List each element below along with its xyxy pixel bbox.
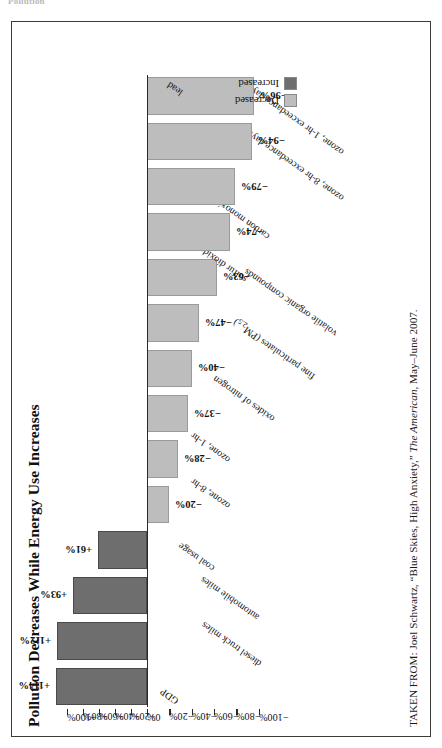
axis-tick-label: 0% bbox=[147, 712, 161, 723]
bar-column[interactable]: −94%ozone, 1-hr exceedance days bbox=[51, 121, 281, 162]
bar-increased[interactable] bbox=[98, 531, 147, 568]
bar-column[interactable]: +93%automobile miles bbox=[51, 575, 281, 616]
bar-columns: +114%GDP+112%diesel truck miles+93%autom… bbox=[51, 75, 281, 707]
source-suffix: , May–June 2007. bbox=[407, 309, 419, 389]
bar-increased[interactable] bbox=[56, 668, 147, 705]
bar-column[interactable]: +114%GDP bbox=[51, 666, 281, 707]
clipped-header-word: Pollution bbox=[8, 0, 45, 4]
legend-swatch-increased bbox=[284, 77, 297, 90]
bar-column[interactable]: +112%diesel truck miles bbox=[51, 620, 281, 661]
legend: DecreasedIncreased bbox=[235, 73, 297, 107]
bar-column[interactable]: −37%oxides of nitrogen bbox=[51, 393, 281, 434]
axis-tick-label: −100% bbox=[259, 712, 289, 723]
legend-item[interactable]: Decreased bbox=[235, 94, 297, 107]
bar-decreased[interactable] bbox=[147, 304, 199, 341]
bar-decreased[interactable] bbox=[147, 213, 230, 250]
legend-swatch-decreased bbox=[284, 94, 297, 107]
legend-item[interactable]: Increased bbox=[235, 77, 297, 90]
axis-tick-label: −20% bbox=[169, 712, 193, 723]
bar-value-label: −28% bbox=[184, 453, 211, 464]
category-label: coal usage bbox=[176, 541, 217, 574]
value-axis: +100%+80%+60%+40%+20%0%−20%−40%−60%−80%−… bbox=[51, 708, 281, 709]
bar-column[interactable]: −40%fine particulates (PM2.5) bbox=[51, 348, 281, 389]
bar-column[interactable]: −20%ozone, 8-hr bbox=[51, 484, 281, 525]
bar-column[interactable]: −47%volatile organic compounds bbox=[51, 302, 281, 343]
bar-decreased[interactable] bbox=[147, 123, 252, 160]
bar-value-label: −79% bbox=[241, 181, 268, 192]
bar-increased[interactable] bbox=[57, 622, 147, 659]
rotated-chart-stage: Pollution Decreases While Energy Use Inc… bbox=[19, 29, 423, 729]
bar-value-label: −37% bbox=[194, 408, 221, 419]
source-credit: TAKEN FROM: Joel Schwartz, “Blue Skies, … bbox=[407, 37, 419, 727]
bar-decreased[interactable] bbox=[147, 259, 217, 296]
category-label: automobile miles bbox=[198, 575, 261, 624]
bar-column[interactable]: −79%ozone, 8-hr exceedance days bbox=[51, 166, 281, 207]
legend-label: Decreased bbox=[235, 95, 279, 106]
axis-tick-label: −80% bbox=[236, 712, 260, 723]
bar-value-label: −20% bbox=[175, 499, 202, 510]
page-canvas: Pollution Pollution Decreases While Ener… bbox=[0, 0, 442, 748]
category-label: GDP bbox=[158, 687, 181, 707]
bar-decreased[interactable] bbox=[147, 395, 188, 432]
bar-value-label: +61% bbox=[65, 544, 92, 555]
legend-label: Increased bbox=[238, 78, 279, 89]
bar-value-label: −94% bbox=[258, 135, 285, 146]
zero-baseline bbox=[147, 75, 148, 707]
bar-value-label: −40% bbox=[198, 362, 225, 373]
bar-decreased[interactable] bbox=[147, 440, 178, 477]
axis-tick-label: −60% bbox=[214, 712, 238, 723]
plot-area: +114%GDP+112%diesel truck miles+93%autom… bbox=[51, 75, 351, 707]
bar-column[interactable]: −63%sulfur dioxide bbox=[51, 257, 281, 298]
bar-decreased[interactable] bbox=[147, 168, 235, 205]
bar-column[interactable]: −28%ozone, 1-hr bbox=[51, 438, 281, 479]
bar-value-label: −47% bbox=[205, 317, 232, 328]
bar-decreased[interactable] bbox=[147, 350, 192, 387]
bar-increased[interactable] bbox=[73, 577, 147, 614]
bar-decreased[interactable] bbox=[147, 486, 169, 523]
source-prefix: TAKEN FROM: Joel Schwartz, “Blue Skies, … bbox=[407, 452, 419, 727]
bar-value-label: +112% bbox=[20, 635, 51, 646]
bar-column[interactable]: −74%carbon monoxide bbox=[51, 211, 281, 252]
bar-value-label: +114% bbox=[19, 680, 50, 691]
category-label: diesel truck miles bbox=[199, 620, 263, 669]
axis-tick-label: −40% bbox=[192, 712, 216, 723]
bar-value-label: +93% bbox=[40, 589, 67, 600]
figure-frame: Pollution Decreases While Energy Use Inc… bbox=[11, 21, 431, 737]
source-publication: The American bbox=[407, 390, 419, 453]
bar-column[interactable]: +61%coal usage bbox=[51, 529, 281, 570]
